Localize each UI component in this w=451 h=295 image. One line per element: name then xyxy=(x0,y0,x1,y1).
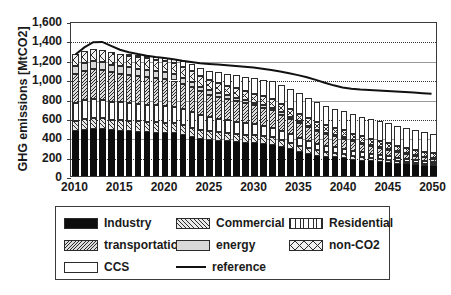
reference-line xyxy=(71,23,436,176)
x-axis-tick-labels: 201020152020202520302035204020452050 xyxy=(70,180,437,198)
legend-row: transportationenergynon-CO2 xyxy=(64,234,381,256)
plot-area xyxy=(70,22,437,177)
x-axis-tick: 2040 xyxy=(330,180,357,194)
x-axis-tick: 2035 xyxy=(285,180,312,194)
y-axis-tick-mark xyxy=(67,62,71,63)
x-axis-tick: 2025 xyxy=(195,180,222,194)
legend-item-transportation[interactable]: transportation xyxy=(64,238,185,252)
legend-item-commercial[interactable]: Commercial xyxy=(176,216,285,230)
y-axis-tick: 0 xyxy=(0,170,62,184)
legend-row: IndustryCommercialResidential xyxy=(64,212,381,234)
legend-label: Commercial xyxy=(216,216,285,230)
y-axis-tick: 800 xyxy=(0,93,62,107)
y-axis-tick: 1,600 xyxy=(0,15,62,29)
legend-swatch-residential-icon xyxy=(289,218,323,229)
y-axis-tick-mark xyxy=(67,42,71,43)
legend-swatch-commercial-icon xyxy=(176,218,210,229)
legend-label: Residential xyxy=(329,216,393,230)
y-axis-tick: 400 xyxy=(0,131,62,145)
chart-legend: IndustryCommercialResidentialtransportat… xyxy=(55,206,390,280)
x-axis-tick: 2030 xyxy=(240,180,267,194)
y-axis-tick: 1,200 xyxy=(0,54,62,68)
y-axis-tick-mark xyxy=(67,101,71,102)
legend-item-reference[interactable]: reference xyxy=(176,260,266,274)
x-axis-tick: 2010 xyxy=(61,180,88,194)
legend-swatch-ccs-icon xyxy=(64,262,98,273)
legend-label: Industry xyxy=(104,216,151,230)
chart-figure: GHG emissions [MtCO2] 02004006008001,000… xyxy=(0,0,451,295)
y-axis-tick: 1,000 xyxy=(0,73,62,87)
legend-swatch-nonco2-icon xyxy=(289,240,323,251)
legend-label: CCS xyxy=(104,260,129,274)
legend-item-ccs[interactable]: CCS xyxy=(64,260,129,274)
y-axis-tick-mark xyxy=(67,23,71,24)
legend-item-energy[interactable]: energy xyxy=(176,238,255,252)
legend-label: transportation xyxy=(104,238,185,252)
x-axis-tick: 2020 xyxy=(151,180,178,194)
y-axis-tick-mark xyxy=(67,178,71,179)
legend-label: reference xyxy=(212,260,266,274)
y-axis-tick: 1,400 xyxy=(0,34,62,48)
legend-item-industry[interactable]: Industry xyxy=(64,216,151,230)
y-axis-tick-labels: 02004006008001,0001,2001,4001,600 xyxy=(0,22,66,177)
legend-swatch-energy-icon xyxy=(176,240,210,251)
x-axis-tick: 2015 xyxy=(106,180,133,194)
y-axis-tick-mark xyxy=(67,120,71,121)
legend-swatch-line-icon xyxy=(176,266,206,268)
y-axis-tick: 600 xyxy=(0,112,62,126)
y-axis-tick-mark xyxy=(67,81,71,82)
legend-swatch-transportation-icon xyxy=(64,240,98,251)
legend-item-residential[interactable]: Residential xyxy=(289,216,393,230)
x-axis-tick: 2050 xyxy=(419,180,446,194)
y-axis-tick-mark xyxy=(67,159,71,160)
legend-item-non-co2[interactable]: non-CO2 xyxy=(289,238,380,252)
x-axis-tick: 2045 xyxy=(374,180,401,194)
legend-swatch-industry-icon xyxy=(64,218,98,229)
legend-row: CCSreference xyxy=(64,256,381,278)
y-axis-tick: 200 xyxy=(0,151,62,165)
legend-label: energy xyxy=(216,238,255,252)
legend-label: non-CO2 xyxy=(329,238,380,252)
reference-line-path xyxy=(75,42,431,94)
y-axis-tick-mark xyxy=(67,139,71,140)
